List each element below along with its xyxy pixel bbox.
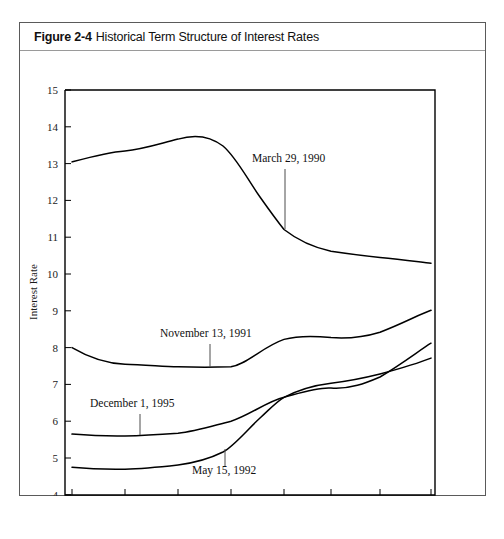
figure-number-label: Figure 2-4: [34, 30, 92, 44]
y-tick-label: 10: [47, 268, 59, 280]
annotation-may-1992: May 15, 1992: [192, 449, 256, 477]
line-chart: 15 14 13 12 11 10 9 8 7 6: [20, 52, 485, 496]
annotation-december-1995: December 1, 1995: [90, 397, 175, 435]
annotation-label: December 1, 1995: [90, 397, 175, 410]
y-tick-label: 12: [47, 194, 58, 206]
annotation-label: November 13, 1991: [160, 327, 252, 340]
y-tick-label: 9: [53, 305, 59, 317]
y-tick-label: 6: [53, 415, 59, 427]
y-tick-label: 13: [47, 158, 59, 170]
y-tick-label: 15: [47, 84, 59, 96]
y-axis-ticks: 15 14 13 12 11 10 9 8 7 6: [47, 84, 71, 496]
figure-title: Historical Term Structure of Interest Ra…: [96, 30, 319, 44]
figure-header: Figure 2-4 Historical Term Structure of …: [20, 23, 485, 51]
y-tick-label: 11: [47, 231, 58, 243]
series-line-may-1992: [72, 358, 431, 469]
annotation-march-1990: March 29, 1990: [252, 152, 325, 229]
annotation-label: May 15, 1992: [192, 464, 256, 477]
figure-container: Figure 2-4 Historical Term Structure of …: [19, 22, 486, 496]
chart-plot-area: 15 14 13 12 11 10 9 8 7 6: [20, 52, 485, 496]
y-axis-title: Interest Rate: [27, 264, 39, 320]
y-tick-label: 4: [53, 489, 59, 496]
y-tick-label: 8: [53, 342, 59, 354]
y-tick-label: 7: [53, 378, 59, 390]
annotation-label: March 29, 1990: [252, 152, 325, 165]
annotation-november-1991: November 13, 1991: [160, 327, 252, 367]
y-tick-label: 14: [47, 121, 59, 133]
y-tick-label: 5: [53, 452, 59, 464]
